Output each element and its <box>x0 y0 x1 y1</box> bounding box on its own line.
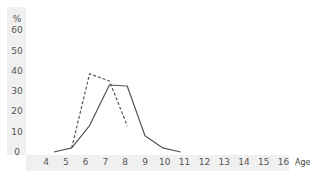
line-chart-plot <box>0 0 321 176</box>
